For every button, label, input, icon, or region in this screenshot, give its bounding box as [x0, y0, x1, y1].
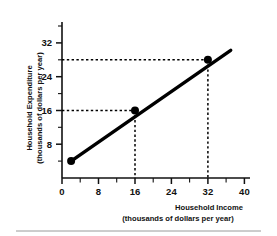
x-tick-label-40: 40: [239, 186, 250, 197]
x-tick-label-32: 32: [203, 186, 214, 197]
x-tick-label-24: 24: [166, 186, 177, 197]
data-point-intercept: [67, 157, 75, 165]
y-tick-label-32: 32: [41, 37, 52, 48]
line-chart-canvas: 8 16 24 32 0 8 16 24 32: [0, 0, 277, 236]
data-point-32-28: [204, 56, 212, 64]
x-axis-title-line2: (thousands of dollars per year): [122, 214, 234, 223]
data-point-16-16: [131, 107, 139, 115]
chart-figure: 8 16 24 32 0 8 16 24 32: [0, 0, 277, 236]
y-axis-title: Household Expenditure (thousands of doll…: [25, 52, 44, 164]
x-tick-label-8: 8: [96, 186, 101, 197]
x-tick-label-16: 16: [130, 186, 141, 197]
x-tick-label-0: 0: [59, 186, 64, 197]
x-axis-title-line1: Household Income: [175, 203, 243, 212]
y-axis-title-line2: (thousands of dollars per year): [35, 52, 44, 164]
y-tick-label-8: 8: [47, 139, 52, 150]
y-axis-title-line1: Household Expenditure: [25, 65, 34, 150]
